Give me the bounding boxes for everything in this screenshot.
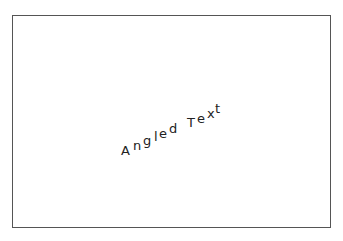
- label-char: x: [207, 107, 215, 120]
- label-char: e: [197, 112, 205, 125]
- label-char: e: [159, 127, 167, 140]
- label-char: n: [133, 139, 141, 152]
- label-char: T: [187, 116, 195, 129]
- label-char: t: [215, 102, 220, 115]
- label-char: l: [154, 130, 158, 143]
- label-char: d: [169, 122, 177, 135]
- label-char: A: [121, 144, 130, 157]
- label-char: g: [143, 134, 151, 147]
